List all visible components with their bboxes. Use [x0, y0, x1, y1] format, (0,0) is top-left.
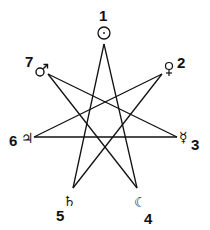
- star-edges: [34, 44, 177, 188]
- sun-icon: [98, 27, 110, 39]
- mars-icon: [36, 65, 48, 77]
- mercury-icon: ☿: [179, 129, 188, 145]
- vertex-1-sun: 1: [98, 7, 110, 39]
- vertex-number-4: 4: [144, 210, 153, 227]
- vertex-2-venus: 2: [166, 54, 186, 76]
- vertex-5-saturn: ♄ 5: [56, 193, 76, 224]
- vertex-number-3: 3: [191, 136, 199, 153]
- vertex-number-5: 5: [56, 207, 64, 224]
- saturn-icon: ♄: [63, 193, 76, 209]
- jupiter-icon: ♃: [21, 130, 34, 146]
- vertex-number-2: 2: [177, 54, 185, 71]
- vertex-4-moon: ☾ 4: [134, 194, 153, 227]
- vertex-number-1: 1: [99, 7, 107, 24]
- vertex-number-7: 7: [25, 53, 33, 70]
- vertex-7-mars: 7: [25, 53, 48, 76]
- edge-2-5: [73, 74, 162, 188]
- moon-icon: ☾: [134, 194, 147, 210]
- vertex-6-jupiter: 6 ♃: [9, 130, 34, 149]
- vertex-number-6: 6: [9, 132, 17, 149]
- edge-6-2: [34, 74, 162, 137]
- vertex-3-mercury: ☿ 3: [179, 129, 199, 153]
- heptagram-diagram: 1 2 ☿ 3 ☾ 4 ♄ 5 6 ♃ 7: [0, 0, 210, 230]
- venus-icon: [166, 63, 173, 77]
